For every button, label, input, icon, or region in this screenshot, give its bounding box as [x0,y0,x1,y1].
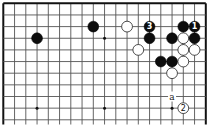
star-point [171,107,174,110]
white-stone [189,45,200,56]
black-stone-disc [155,56,166,67]
white-stone-disc [122,21,133,32]
black-stone-disc [88,21,99,32]
star-point [103,107,106,110]
white-stone-disc [178,33,189,44]
black-stone-move-3: 3 [144,21,155,32]
black-stone [155,56,166,67]
go-board: 312 a [0,0,207,134]
white-stone [178,45,189,56]
black-stone [144,33,155,44]
black-stone [167,56,178,67]
move-number-label: 3 [147,22,153,31]
white-stone-disc [178,45,189,56]
white-stone [178,56,189,67]
black-stone-disc [167,56,178,67]
black-stone [178,21,189,32]
white-stone-disc [178,56,189,67]
black-stone [32,33,43,44]
black-stone [88,21,99,32]
white-stone [178,33,189,44]
star-point [103,37,106,40]
point-label-text: a [169,92,175,102]
black-stone-move-1: 1 [189,21,200,32]
point-label-a: a [168,92,176,102]
black-stone [167,33,178,44]
black-stone-disc [144,33,155,44]
white-stone-disc [189,45,200,56]
black-stone-disc [32,33,43,44]
white-stone-move-2: 2 [178,103,189,114]
white-stone [133,45,144,56]
star-point [36,107,39,110]
white-stone-disc [133,45,144,56]
black-stone-disc [178,21,189,32]
white-stone [122,21,133,32]
black-stone-disc [167,33,178,44]
move-number-label: 1 [192,22,198,31]
white-stone-disc [167,68,178,79]
black-stone-disc [189,33,200,44]
black-stone [189,33,200,44]
move-number-label: 2 [181,104,186,113]
white-stone [167,68,178,79]
point-labels: a [168,92,176,102]
